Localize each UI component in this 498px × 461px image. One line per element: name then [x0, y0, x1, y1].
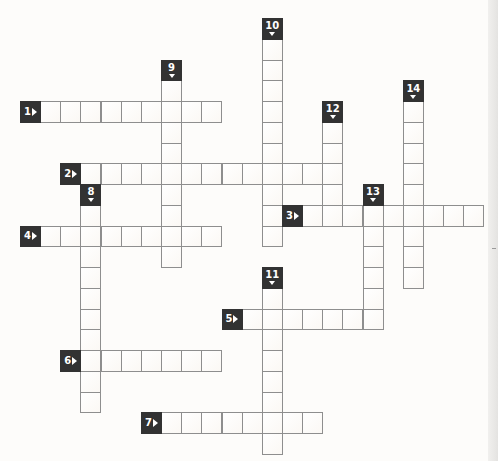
letter-input[interactable] — [182, 352, 201, 372]
letter-input[interactable] — [283, 414, 302, 434]
crossword-cell[interactable] — [161, 80, 182, 102]
crossword-cell[interactable] — [222, 412, 243, 434]
crossword-cell[interactable] — [262, 329, 283, 351]
crossword-cell[interactable] — [101, 226, 122, 248]
crossword-cell[interactable] — [363, 309, 384, 331]
letter-input[interactable] — [263, 373, 282, 393]
letter-input[interactable] — [444, 207, 463, 227]
crossword-cell[interactable] — [121, 350, 142, 372]
crossword-cell[interactable] — [161, 246, 182, 268]
letter-input[interactable] — [364, 228, 383, 248]
letter-input[interactable] — [263, 331, 282, 351]
crossword-cell[interactable] — [262, 163, 283, 185]
letter-input[interactable] — [102, 228, 121, 248]
letter-input[interactable] — [364, 290, 383, 310]
letter-input[interactable] — [81, 228, 100, 248]
letter-input[interactable] — [162, 82, 181, 102]
crossword-cell[interactable] — [80, 246, 101, 268]
letter-input[interactable] — [404, 124, 423, 144]
letter-input[interactable] — [404, 207, 423, 227]
letter-input[interactable] — [202, 352, 221, 372]
letter-input[interactable] — [223, 165, 242, 185]
letter-input[interactable] — [263, 394, 282, 414]
letter-input[interactable] — [142, 228, 161, 248]
letter-input[interactable] — [404, 248, 423, 268]
crossword-cell[interactable] — [161, 184, 182, 206]
crossword-cell[interactable] — [201, 163, 222, 185]
crossword-cell[interactable] — [403, 184, 424, 206]
letter-input[interactable] — [41, 228, 60, 248]
letter-input[interactable] — [162, 103, 181, 123]
crossword-cell[interactable] — [322, 163, 343, 185]
letter-input[interactable] — [404, 103, 423, 123]
crossword-cell[interactable] — [443, 205, 464, 227]
crossword-cell[interactable] — [201, 412, 222, 434]
letter-input[interactable] — [102, 103, 121, 123]
letter-input[interactable] — [81, 290, 100, 310]
letter-input[interactable] — [142, 165, 161, 185]
crossword-cell[interactable] — [363, 205, 384, 227]
letter-input[interactable] — [404, 269, 423, 289]
letter-input[interactable] — [323, 207, 342, 227]
crossword-cell[interactable] — [101, 101, 122, 123]
crossword-cell[interactable] — [403, 101, 424, 123]
crossword-cell[interactable] — [101, 163, 122, 185]
crossword-cell[interactable] — [161, 122, 182, 144]
letter-input[interactable] — [303, 165, 322, 185]
letter-input[interactable] — [182, 103, 201, 123]
letter-input[interactable] — [223, 414, 242, 434]
crossword-cell[interactable] — [141, 101, 162, 123]
crossword-cell[interactable] — [201, 350, 222, 372]
letter-input[interactable] — [263, 435, 282, 455]
crossword-cell[interactable] — [262, 412, 283, 434]
crossword-cell[interactable] — [121, 226, 142, 248]
letter-input[interactable] — [404, 228, 423, 248]
letter-input[interactable] — [81, 165, 100, 185]
letter-input[interactable] — [81, 103, 100, 123]
letter-input[interactable] — [424, 207, 443, 227]
crossword-cell[interactable] — [262, 101, 283, 123]
crossword-cell[interactable] — [282, 163, 303, 185]
letter-input[interactable] — [263, 103, 282, 123]
crossword-cell[interactable] — [80, 350, 101, 372]
crossword-cell[interactable] — [80, 205, 101, 227]
letter-input[interactable] — [162, 352, 181, 372]
letter-input[interactable] — [263, 186, 282, 206]
letter-input[interactable] — [263, 145, 282, 165]
crossword-cell[interactable] — [201, 101, 222, 123]
letter-input[interactable] — [464, 207, 483, 227]
crossword-cell[interactable] — [101, 350, 122, 372]
letter-input[interactable] — [142, 352, 161, 372]
crossword-cell[interactable] — [181, 412, 202, 434]
crossword-cell[interactable] — [463, 205, 484, 227]
letter-input[interactable] — [202, 414, 221, 434]
letter-input[interactable] — [323, 311, 342, 331]
crossword-cell[interactable] — [403, 246, 424, 268]
crossword-cell[interactable] — [181, 226, 202, 248]
letter-input[interactable] — [404, 186, 423, 206]
letter-input[interactable] — [162, 165, 181, 185]
crossword-cell[interactable] — [302, 163, 323, 185]
crossword-cell[interactable] — [342, 309, 363, 331]
letter-input[interactable] — [263, 352, 282, 372]
crossword-cell[interactable] — [80, 371, 101, 393]
crossword-cell[interactable] — [363, 288, 384, 310]
crossword-cell[interactable] — [403, 267, 424, 289]
crossword-cell[interactable] — [363, 226, 384, 248]
letter-input[interactable] — [182, 414, 201, 434]
crossword-cell[interactable] — [242, 412, 263, 434]
crossword-cell[interactable] — [201, 226, 222, 248]
crossword-cell[interactable] — [141, 226, 162, 248]
letter-input[interactable] — [182, 165, 201, 185]
crossword-cell[interactable] — [80, 392, 101, 414]
crossword-cell[interactable] — [80, 288, 101, 310]
letter-input[interactable] — [61, 103, 80, 123]
crossword-cell[interactable] — [302, 309, 323, 331]
crossword-cell[interactable] — [262, 371, 283, 393]
crossword-cell[interactable] — [282, 412, 303, 434]
letter-input[interactable] — [122, 103, 141, 123]
crossword-cell[interactable] — [363, 267, 384, 289]
crossword-cell[interactable] — [80, 163, 101, 185]
crossword-cell[interactable] — [262, 122, 283, 144]
crossword-cell[interactable] — [322, 309, 343, 331]
